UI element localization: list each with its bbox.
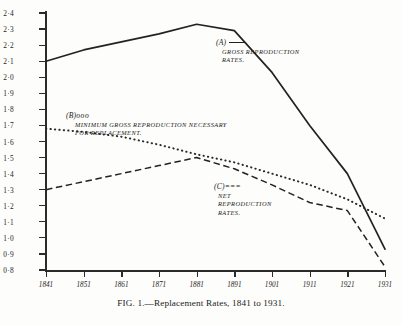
figure-replacement-rates: 2·42·32·22·12·01·91·81·71·61·51·41·31·21…: [0, 0, 402, 325]
x-axis-tick-label: 1851: [76, 281, 90, 289]
x-axis-tick-label: 1931: [378, 281, 392, 289]
annotation-series-c: (C)=== NET REPRODUCTION RATES.: [214, 182, 272, 217]
x-axis-tick: [159, 271, 160, 277]
annotation-series-a: (A) GROSS REPRODUCTION RATES.: [216, 38, 300, 65]
annotation-c-line3: RATES.: [218, 209, 272, 217]
x-axis-tick: [197, 271, 198, 277]
x-axis-tick-label: 1871: [152, 281, 166, 289]
annotation-a-line1: GROSS REPRODUCTION: [222, 48, 300, 56]
annotation-b-line2: FOR REPLACEMENT.: [75, 129, 227, 137]
x-axis-tick-label: 1911: [303, 281, 317, 289]
x-axis-tick: [347, 271, 348, 277]
solid-line-swatch-icon: [229, 42, 245, 43]
annotation-c-line2: REPRODUCTION: [218, 200, 272, 208]
annotation-b-key: (B)ooo: [66, 111, 227, 121]
dashed-line-swatch-icon: ===: [225, 182, 241, 191]
x-axis-tick-label: 1881: [189, 281, 203, 289]
figure-caption: FIG. 1.—Replacement Rates, 1841 to 1931.: [0, 298, 402, 308]
x-axis-tick: [46, 271, 47, 277]
x-axis-tick: [272, 271, 273, 277]
chart-curves: [0, 0, 402, 325]
x-axis-tick-label: 1901: [265, 281, 279, 289]
annotation-c-key: (C)===: [214, 182, 272, 192]
annotation-b-line1: MINIMUM GROSS REPRODUCTION NECESSARY: [75, 121, 227, 129]
annotation-series-b: (B)ooo MINIMUM GROSS REPRODUCTION NECESS…: [66, 111, 227, 138]
x-axis-tick-label: 1921: [340, 281, 354, 289]
x-axis-tick: [234, 271, 235, 277]
x-axis-tick-label: 1891: [227, 281, 241, 289]
x-axis-tick: [84, 271, 85, 277]
annotation-a-line2: RATES.: [222, 56, 300, 64]
x-axis-tick-label: 1841: [39, 281, 53, 289]
x-axis-tick: [310, 271, 311, 277]
annotation-a-key: (A): [216, 38, 300, 48]
x-axis-tick: [121, 271, 122, 277]
dotted-line-swatch-icon: ooo: [76, 111, 89, 120]
x-axis-tick-label: 1861: [114, 281, 128, 289]
x-axis-tick: [385, 271, 386, 277]
annotation-c-line1: NET: [218, 192, 272, 200]
